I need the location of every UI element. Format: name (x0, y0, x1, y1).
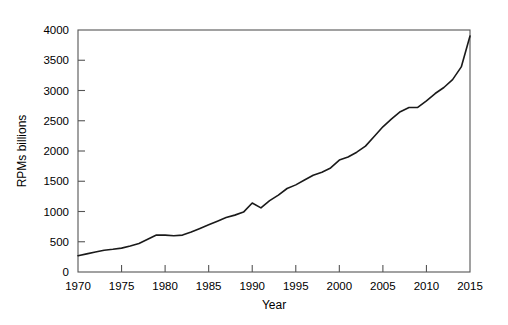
y-tick-label: 4000 (43, 24, 69, 36)
y-axis-ticks (78, 60, 85, 242)
x-axis-tick-labels: 1970197519801985199019952000200520102015 (65, 280, 483, 292)
x-tick-label: 2010 (414, 280, 440, 292)
x-tick-label: 1985 (196, 280, 222, 292)
y-axis-tick-labels: 05001000150020002500300035004000 (43, 24, 69, 278)
y-tick-label: 2000 (43, 145, 69, 157)
y-tick-label: 500 (50, 236, 69, 248)
x-tick-label: 2015 (457, 280, 483, 292)
y-tick-label: 3000 (43, 85, 69, 97)
chart-figure: 05001000150020002500300035004000 1970197… (0, 0, 508, 325)
x-tick-label: 1970 (65, 280, 91, 292)
x-tick-label: 1975 (109, 280, 135, 292)
line-chart: 05001000150020002500300035004000 1970197… (0, 0, 508, 325)
x-tick-label: 2005 (370, 280, 396, 292)
x-tick-label: 2000 (327, 280, 353, 292)
x-tick-label: 1995 (283, 280, 309, 292)
y-tick-label: 0 (63, 266, 69, 278)
plot-frame (78, 30, 470, 272)
y-tick-label: 2500 (43, 115, 69, 127)
y-axis-title: RPMs billions (15, 115, 29, 188)
y-tick-label: 3500 (43, 54, 69, 66)
data-series-line (78, 36, 470, 256)
x-tick-label: 1990 (239, 280, 265, 292)
y-tick-label: 1000 (43, 206, 69, 218)
x-axis-title: Year (262, 298, 286, 312)
x-axis-ticks (122, 265, 427, 272)
x-tick-label: 1980 (152, 280, 178, 292)
y-tick-label: 1500 (43, 175, 69, 187)
